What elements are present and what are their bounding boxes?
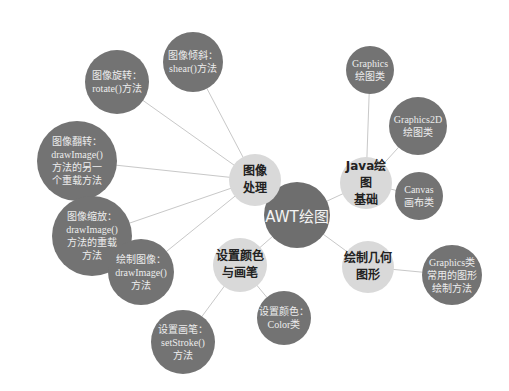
leaf-label: 设置颜色： Color类 — [259, 305, 309, 331]
leaf-image-rotate[interactable]: 图像旋转： rotate()方法 — [85, 50, 149, 114]
leaf-graphics2d-class[interactable]: Graphics2D 绘图类 — [389, 97, 447, 155]
leaf-label: 图像翻转： drawImage() 方法的另一 个重载方法 — [51, 135, 103, 187]
leaf-label: 图像倾斜： shear()方法 — [168, 49, 218, 75]
leaf-set-stroke[interactable]: 设置画笔： setStroke() 方法 — [151, 310, 215, 374]
branch-label: 绘制几何 图形 — [344, 250, 392, 284]
leaf-label: 图像旋转： rotate()方法 — [92, 69, 142, 95]
leaf-graphics-draw-methods[interactable]: Graphics类 常用的图形 绘制方法 — [422, 245, 482, 305]
branch-draw-geometry[interactable]: 绘制几何 图形 — [342, 241, 394, 293]
root-label: AWT绘图 — [265, 205, 328, 226]
leaf-graphics-class[interactable]: Graphics 绘图类 — [346, 46, 394, 94]
leaf-image-shear[interactable]: 图像倾斜： shear()方法 — [163, 32, 223, 92]
leaf-label: 绘制图像： drawImage() 方法 — [115, 253, 167, 292]
leaf-label: Graphics 绘图类 — [352, 57, 388, 83]
leaf-label: Graphics类 常用的图形 绘制方法 — [427, 256, 477, 295]
branch-java-drawing-basics[interactable]: Java绘图 基础 — [340, 157, 392, 209]
leaf-label: 图像缩放： drawImage() 方法的重载 方法 — [66, 210, 118, 262]
leaf-color-class[interactable]: 设置颜色： Color类 — [257, 291, 311, 345]
leaf-label: Graphics2D 绘图类 — [394, 113, 442, 139]
leaf-canvas-class[interactable]: Canvas 画布类 — [395, 172, 443, 220]
branch-label: 图像 处理 — [243, 163, 267, 197]
branch-label: Java绘图 基础 — [340, 158, 392, 209]
leaf-image-flip[interactable]: 图像翻转： drawImage() 方法的另一 个重载方法 — [37, 121, 117, 201]
leaf-label: Canvas 画布类 — [404, 183, 434, 209]
mind-map-canvas: AWT绘图 图像 处理 Java绘图 基础 设置颜色 与画笔 绘制几何 图形 图… — [0, 0, 509, 391]
leaf-draw-image[interactable]: 绘制图像： drawImage() 方法 — [108, 239, 174, 305]
branch-label: 设置颜色 与画笔 — [216, 248, 264, 282]
branch-image-processing[interactable]: 图像 处理 — [229, 154, 281, 206]
leaf-label: 设置画笔： setStroke() 方法 — [158, 323, 208, 362]
branch-color-and-pen[interactable]: 设置颜色 与画笔 — [213, 238, 267, 292]
